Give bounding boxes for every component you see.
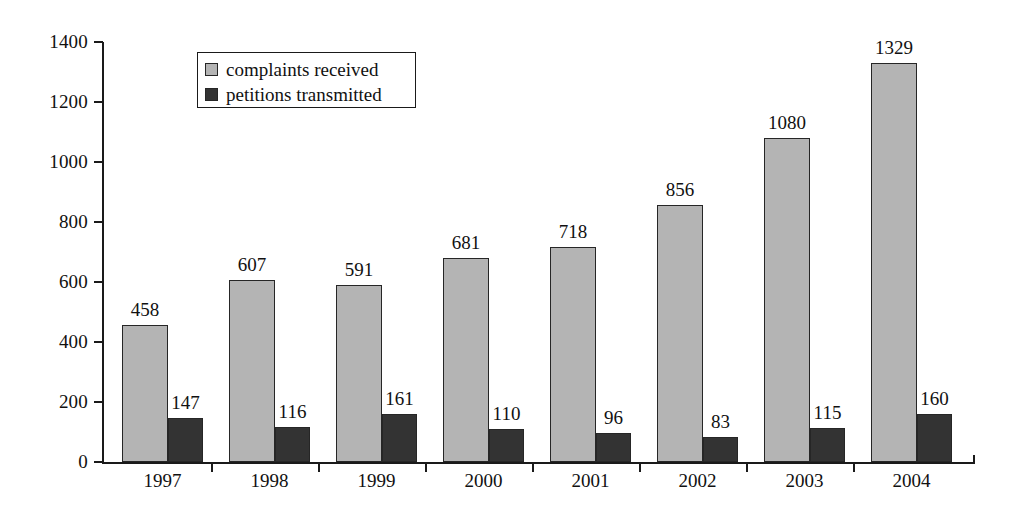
x-axis-label-1998: 1998 [230, 470, 310, 492]
bar-value-label: 856 [666, 180, 695, 199]
x-axis-tick [318, 463, 320, 472]
bar-value-label: 96 [604, 408, 623, 427]
x-axis-label-2003: 2003 [765, 470, 845, 492]
bar-2004-petitions-transmitted [917, 414, 952, 462]
bar-1998-complaints-received [229, 280, 275, 462]
bar-value-label: 160 [920, 389, 949, 408]
x-axis-tick [746, 463, 748, 472]
x-axis-label-2004: 2004 [872, 470, 952, 492]
legend-label-petitions-transmitted: petitions transmitted [226, 85, 382, 104]
x-axis-tick [639, 463, 641, 472]
bar-1999-complaints-received [336, 285, 382, 462]
bar-2001-complaints-received [550, 247, 596, 462]
bar-value-label: 110 [493, 404, 521, 423]
bar-value-label: 1080 [768, 113, 806, 132]
bar-chart: 0200400600800100012001400 45814760711659… [0, 0, 1026, 512]
bar-1997-petitions-transmitted [168, 418, 203, 462]
bar-1997-complaints-received [122, 325, 168, 462]
bar-value-label: 591 [345, 260, 374, 279]
legend-item-petitions-transmitted: petitions transmitted [205, 82, 408, 107]
x-axis-label-2002: 2002 [658, 470, 738, 492]
x-axis-line [102, 462, 975, 464]
x-axis-tick [532, 463, 534, 472]
plot-area: 4581476071165911616811107189685683108011… [0, 0, 1026, 512]
chart-legend: complaints received petitions transmitte… [197, 52, 416, 108]
bar-value-label: 718 [559, 222, 588, 241]
legend-item-complaints-received: complaints received [205, 57, 408, 82]
light-gray-square-icon [205, 63, 218, 76]
bar-value-label: 1329 [875, 38, 913, 57]
bar-value-label: 607 [238, 255, 267, 274]
bar-value-label: 83 [711, 412, 730, 431]
bar-value-label: 115 [814, 403, 842, 422]
bar-value-label: 161 [385, 389, 414, 408]
bar-2002-complaints-received [657, 205, 703, 462]
bar-2000-complaints-received [443, 258, 489, 462]
bar-2003-complaints-received [764, 138, 810, 462]
x-axis-tick [853, 463, 855, 472]
x-axis-label-1997: 1997 [123, 470, 203, 492]
bar-value-label: 116 [279, 402, 307, 421]
bar-2002-petitions-transmitted [703, 437, 738, 462]
dark-gray-square-icon [205, 88, 218, 101]
bar-1998-petitions-transmitted [275, 427, 310, 462]
bar-value-label: 458 [131, 300, 160, 319]
bar-value-label: 147 [171, 393, 200, 412]
bar-2000-petitions-transmitted [489, 429, 524, 462]
bar-2003-petitions-transmitted [810, 428, 845, 463]
bar-value-label: 681 [452, 233, 481, 252]
bar-1999-petitions-transmitted [382, 414, 417, 462]
x-axis-label-1999: 1999 [337, 470, 417, 492]
bar-2001-petitions-transmitted [596, 433, 631, 462]
legend-label-complaints-received: complaints received [226, 60, 378, 79]
x-axis-label-2000: 2000 [444, 470, 524, 492]
x-axis-tick [425, 463, 427, 472]
bar-2004-complaints-received [871, 63, 917, 462]
x-axis-label-2001: 2001 [551, 470, 631, 492]
x-axis-tick [211, 463, 213, 472]
x-axis-end-tick [973, 455, 975, 464]
